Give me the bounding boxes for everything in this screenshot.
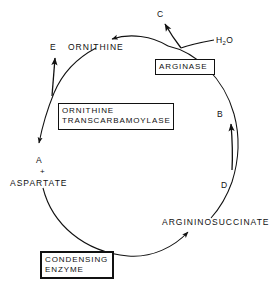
metabolite-ornithine: ORNITHINE	[68, 43, 124, 52]
metabolite-argininosuccinate: ARGININOSUCCINATE	[162, 218, 270, 227]
enzyme-box-condensing-enzyme: CONDENSING ENZYME	[40, 251, 114, 279]
enzyme-otc-line-1: ORNITHINE	[62, 106, 170, 116]
enzyme-arginase-line-1: ARGINASE	[159, 62, 211, 72]
metabolite-aspartate: ASPARTATE	[10, 179, 68, 188]
enzyme-box-ornithine-transcarbamoylase: ORNITHINE TRANSCARBAMOYLASE	[58, 103, 174, 130]
urea-cycle-diagram: E C B D A ORNITHINE + ASPARTATE ARGININO…	[0, 0, 279, 288]
cycle-graphics	[0, 0, 279, 288]
plus-sign: +	[40, 168, 45, 176]
water-inflow-curve	[181, 40, 214, 48]
cycle-arc-left-upper	[54, 48, 96, 93]
node-label-d: D	[221, 181, 227, 190]
node-label-b: B	[217, 110, 223, 119]
cycle-arc-upper-right	[168, 46, 234, 114]
enzyme-otc-line-2: TRANSCARBAMOYLASE	[62, 116, 170, 126]
water-oxygen: O	[226, 35, 233, 45]
water-element: H	[216, 35, 223, 45]
node-label-e: E	[50, 43, 56, 52]
water-label: H2O	[216, 36, 233, 45]
enzyme-condensing-line-1: CONDENSING	[45, 255, 109, 265]
arrow-to-node-b	[231, 124, 232, 170]
arrow-to-node-a	[39, 93, 54, 143]
node-label-c: C	[157, 10, 163, 19]
node-label-a: A	[36, 156, 42, 165]
arrow-to-node-c	[165, 24, 181, 48]
water-subscript: 2	[223, 40, 227, 46]
enzyme-box-arginase: ARGINASE	[155, 59, 215, 75]
enzyme-condensing-line-2: ENZYME	[45, 265, 109, 275]
arrow-to-node-e	[52, 58, 55, 96]
